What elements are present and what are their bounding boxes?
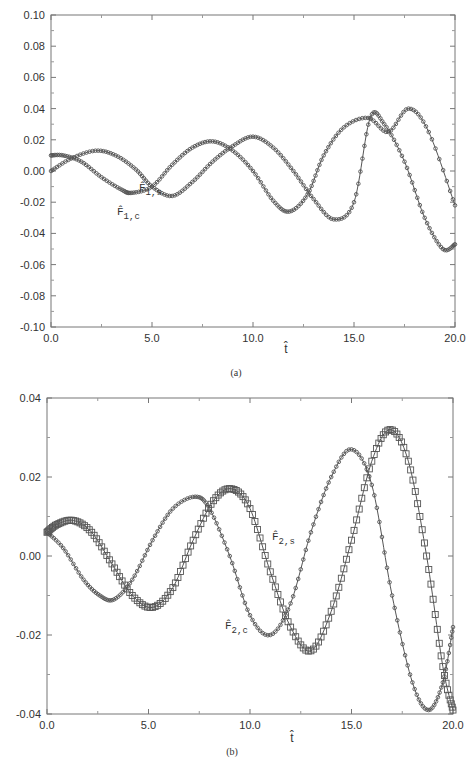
x-tick-label: 5.0 xyxy=(141,719,156,731)
y-tick-label: 0.04 xyxy=(20,392,41,404)
y-tick-label: -0.02 xyxy=(16,629,41,641)
x-tick-label: 5.0 xyxy=(144,332,159,344)
x-tick-label: 20.0 xyxy=(444,332,465,344)
y-tick-label: -0.04 xyxy=(20,227,45,239)
y-tick-label: -0.08 xyxy=(20,290,45,302)
series-label-f2c: F̂2,c xyxy=(225,619,248,636)
series-line xyxy=(47,430,453,710)
y-tick-label: 0.00 xyxy=(24,165,45,177)
y-tick-label: 0.00 xyxy=(20,550,41,562)
x-axis-label-a: t̂ xyxy=(284,341,288,356)
y-tick-label: 0.02 xyxy=(24,134,45,146)
series-line xyxy=(47,449,453,710)
x-tick-label: 0.0 xyxy=(43,332,58,344)
series-label-f2s: F̂2,s xyxy=(272,530,295,547)
chart-b: 0.040.020.00-0.02-0.04 0.05.010.015.020.… xyxy=(0,385,476,765)
series-line xyxy=(51,112,455,250)
y-axis-ticks-a: 0.100.080.060.040.020.00-0.02-0.04-0.06-… xyxy=(20,9,455,333)
caption-b: (b) xyxy=(226,746,238,758)
x-tick-label: 15.0 xyxy=(343,332,364,344)
y-axis-ticks-b: 0.040.020.00-0.02-0.04 xyxy=(16,392,453,720)
y-tick-label: 0.02 xyxy=(20,471,41,483)
chart-a: 0.100.080.060.040.020.00-0.02-0.04-0.06-… xyxy=(0,0,476,380)
x-axis-ticks-b: 0.05.010.015.020.0 xyxy=(39,398,463,731)
y-tick-label: 0.08 xyxy=(24,40,45,52)
y-tick-label: -0.06 xyxy=(20,259,45,271)
caption-a: (a) xyxy=(230,367,241,379)
y-tick-label: -0.10 xyxy=(20,321,45,333)
x-tick-label: 15.0 xyxy=(341,719,362,731)
series-group-a xyxy=(49,107,457,252)
series-label-f1c: F̂1,c xyxy=(117,205,140,222)
x-tick-label: 0.0 xyxy=(39,719,54,731)
x-tick-label: 10.0 xyxy=(239,719,260,731)
x-axis-ticks-a: 0.05.010.015.020.0 xyxy=(43,15,465,344)
series-group-b xyxy=(44,427,456,713)
y-tick-label: 0.06 xyxy=(24,71,45,83)
y-tick-label: -0.02 xyxy=(20,196,45,208)
y-tick-label: -0.04 xyxy=(16,708,41,720)
y-tick-label: 0.04 xyxy=(24,103,45,115)
plot-frame-b xyxy=(47,398,453,714)
x-tick-label: 20.0 xyxy=(442,719,463,731)
x-tick-label: 10.0 xyxy=(242,332,263,344)
y-tick-label: 0.10 xyxy=(24,9,45,21)
x-axis-label-b: t̂ xyxy=(290,730,294,745)
